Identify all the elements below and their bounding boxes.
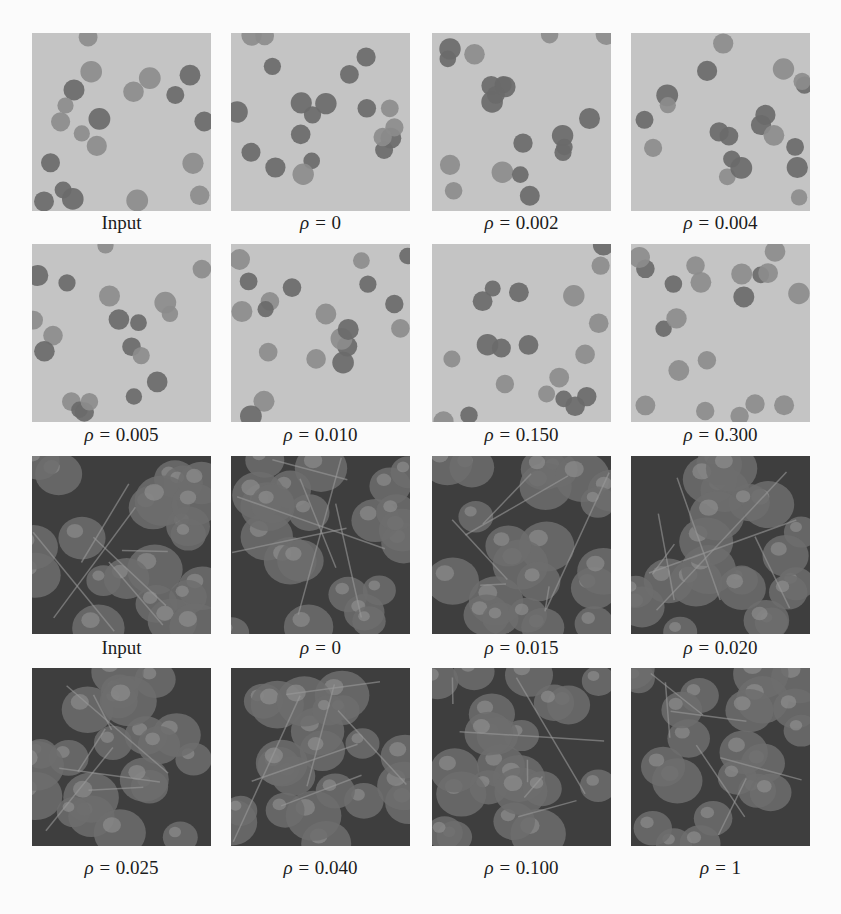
image-caption: ρ = 0.020 — [631, 637, 810, 659]
rho-symbol: ρ = — [300, 212, 331, 233]
synthesized-texture-image — [231, 244, 410, 422]
rho-value: 0.004 — [715, 212, 758, 233]
synthesized-texture-image — [432, 456, 611, 634]
rho-value: 0.015 — [516, 637, 559, 658]
synthesized-texture-image — [32, 244, 211, 422]
rho-symbol: ρ = — [484, 424, 515, 445]
synthesized-texture-image — [231, 668, 410, 846]
rho-symbol: ρ = — [84, 857, 115, 878]
rho-value: 0.100 — [516, 857, 559, 878]
image-caption: ρ = 0.002 — [432, 212, 611, 234]
rho-value: 0.002 — [516, 212, 559, 233]
image-caption: ρ = 0.025 — [32, 857, 211, 879]
rho-symbol: ρ = — [300, 637, 331, 658]
synthesized-texture-image — [432, 668, 611, 846]
synthesized-texture-image — [631, 33, 810, 211]
image-caption: ρ = 0.300 — [631, 424, 810, 446]
rho-value: 0.300 — [715, 424, 758, 445]
rho-value: 0.005 — [116, 424, 159, 445]
rho-symbol: ρ = — [683, 637, 714, 658]
rho-symbol: ρ = — [484, 857, 515, 878]
rho-value: 0 — [331, 212, 341, 233]
rho-value: Input — [101, 637, 141, 658]
image-caption: ρ = 0 — [231, 637, 410, 659]
synthesized-texture-image — [231, 456, 410, 634]
image-caption: ρ = 0.004 — [631, 212, 810, 234]
rho-symbol: ρ = — [683, 212, 714, 233]
image-caption: ρ = 0.100 — [432, 857, 611, 879]
image-caption: ρ = 0 — [231, 212, 410, 234]
image-caption: Input — [32, 637, 211, 659]
rho-value: 1 — [731, 857, 741, 878]
image-caption: ρ = 0.010 — [231, 424, 410, 446]
input-texture-image — [32, 456, 211, 634]
synthesized-texture-image — [631, 244, 810, 422]
rho-symbol: ρ = — [283, 857, 314, 878]
rho-value: 0.020 — [715, 637, 758, 658]
rho-symbol: ρ = — [283, 424, 314, 445]
input-texture-image — [32, 33, 211, 211]
rho-value: 0.010 — [315, 424, 358, 445]
rho-symbol: ρ = — [84, 424, 115, 445]
image-caption: ρ = 0.005 — [32, 424, 211, 446]
rho-symbol: ρ = — [484, 637, 515, 658]
image-caption: ρ = 1 — [631, 857, 810, 879]
image-caption: Input — [32, 212, 211, 234]
image-caption: ρ = 0.015 — [432, 637, 611, 659]
synthesized-texture-image — [32, 668, 211, 846]
rho-value: Input — [101, 212, 141, 233]
image-caption: ρ = 0.040 — [231, 857, 410, 879]
synthesized-texture-image — [231, 33, 410, 211]
rho-symbol: ρ = — [484, 212, 515, 233]
synthesized-texture-image — [432, 33, 611, 211]
image-caption: ρ = 0.150 — [432, 424, 611, 446]
synthesized-texture-image — [631, 456, 810, 634]
rho-value: 0 — [331, 637, 341, 658]
rho-symbol: ρ = — [683, 424, 714, 445]
rho-value: 0.150 — [516, 424, 559, 445]
synthesized-texture-image — [432, 244, 611, 422]
rho-value: 0.040 — [315, 857, 358, 878]
rho-symbol: ρ = — [700, 857, 731, 878]
synthesized-texture-image — [631, 668, 810, 846]
rho-value: 0.025 — [116, 857, 159, 878]
